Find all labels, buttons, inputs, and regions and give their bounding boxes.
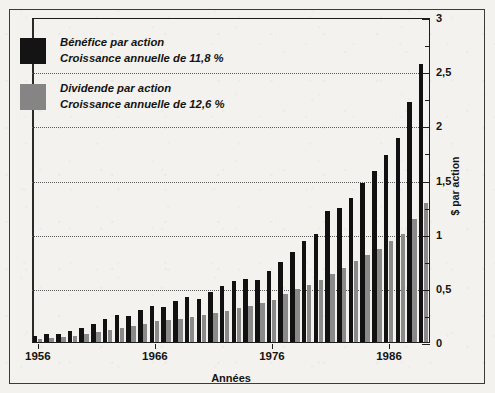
x-tick	[272, 344, 273, 349]
bar-dividende-1968	[178, 319, 183, 342]
y-tick-major	[422, 19, 430, 20]
y-tick-minor	[425, 317, 430, 318]
bar-benefice-1981	[325, 211, 330, 342]
legend-swatch-benefice-icon	[20, 38, 46, 64]
bar-benefice-1983	[349, 198, 354, 342]
bar-benefice-1967	[161, 307, 166, 342]
bar-dividende-1966	[155, 321, 160, 342]
legend-label-dividende: Dividende par action Croissance annuelle…	[60, 81, 225, 112]
y-tick-major	[422, 182, 430, 183]
bar-benefice-1965	[138, 310, 143, 343]
bar-benefice-1964	[126, 316, 131, 342]
bar-dividende-1960	[84, 334, 89, 342]
bar-dividende-1970	[202, 315, 207, 342]
bar-benefice-1957	[44, 334, 49, 342]
bar-benefice-1974	[243, 279, 248, 342]
bar-dividende-1958	[61, 337, 66, 342]
bar-benefice-1960	[79, 328, 84, 342]
bar-benefice-1987	[396, 138, 401, 342]
y-tick-label: 1	[436, 229, 442, 241]
bar-dividende-1982	[342, 268, 347, 342]
y-tick-major	[422, 127, 430, 128]
bar-dividende-1961	[96, 332, 101, 342]
bar-benefice-1982	[337, 208, 342, 342]
bar-benefice-1958	[56, 334, 61, 342]
bar-dividende-1983	[354, 261, 359, 342]
bar-dividende-1972	[225, 311, 230, 342]
y-tick-minor	[425, 209, 430, 210]
bar-dividende-1963	[120, 328, 125, 342]
x-tick-label-1976: 1976	[259, 350, 285, 362]
legend-swatch-dividende-icon	[20, 84, 46, 110]
bar-benefice-1961	[91, 324, 96, 342]
bar-dividende-1964	[131, 326, 136, 342]
y-tick-label: 2,5	[436, 66, 451, 78]
bar-benefice-1985	[372, 171, 377, 342]
bar-benefice-1959	[68, 331, 73, 342]
bar-dividende-1978	[295, 289, 300, 342]
y-tick-major	[422, 344, 430, 345]
y-tick-label: 0,5	[436, 283, 451, 295]
y-tick-major	[422, 290, 430, 291]
bar-dividende-1980	[319, 280, 324, 342]
x-axis-label: Années	[211, 372, 251, 384]
bar-dividende-1975	[260, 303, 265, 342]
bar-benefice-1976	[267, 271, 272, 343]
y-tick-minor	[425, 154, 430, 155]
bar-dividende-1962	[108, 330, 113, 342]
y-tick-minor	[425, 263, 430, 264]
y-tick-minor	[425, 100, 430, 101]
x-tick	[389, 344, 390, 349]
legend-dividende-growth: Croissance annuelle de 12,6 %	[60, 97, 225, 113]
bar-benefice-1979	[302, 241, 307, 342]
bar-benefice-1988	[407, 102, 412, 343]
bar-benefice-1973	[232, 281, 237, 342]
bar-dividende-1989	[424, 203, 429, 342]
legend-item-benefice: Bénéfice par action Croissance annuelle …	[20, 36, 250, 82]
bar-dividende-1956	[38, 339, 43, 342]
legend-benefice-title: Bénéfice par action	[60, 35, 224, 51]
bar-benefice-1969	[185, 297, 190, 343]
bar-benefice-1972	[220, 286, 225, 342]
bar-dividende-1988	[412, 219, 417, 343]
bar-benefice-1962	[103, 319, 108, 342]
bar-benefice-1966	[150, 306, 155, 342]
bar-dividende-1986	[389, 241, 394, 342]
legend-label-benefice: Bénéfice par action Croissance annuelle …	[60, 35, 224, 66]
y-tick-major	[422, 236, 430, 237]
x-tick-label-1956: 1956	[25, 350, 51, 362]
y-tick-major	[422, 73, 430, 74]
bar-benefice-1968	[173, 301, 178, 342]
bar-dividende-1981	[330, 274, 335, 342]
legend-benefice-growth: Croissance annuelle de 11,8 %	[60, 51, 224, 67]
x-tick-label-1966: 1966	[142, 350, 168, 362]
bar-benefice-1971	[208, 292, 213, 342]
y-tick-minor	[425, 46, 430, 47]
bar-dividende-1971	[213, 313, 218, 342]
bar-dividende-1965	[143, 324, 148, 342]
bar-dividende-1957	[49, 338, 54, 342]
bar-dividende-1979	[307, 285, 312, 342]
bar-dividende-1977	[283, 294, 288, 342]
bar-dividende-1967	[166, 320, 171, 342]
bar-benefice-1975	[255, 280, 260, 342]
bar-benefice-1986	[384, 155, 389, 342]
bar-benefice-1977	[278, 262, 283, 342]
bar-benefice-1963	[115, 315, 120, 342]
bar-benefice-1980	[314, 234, 319, 342]
legend-item-dividende: Dividende par action Croissance annuelle…	[20, 82, 250, 128]
bar-dividende-1985	[377, 249, 382, 342]
x-tick-label-1986: 1986	[376, 350, 402, 362]
bar-dividende-1976	[272, 300, 277, 342]
bar-dividende-1984	[365, 255, 370, 342]
y-tick-label: 0	[436, 337, 442, 349]
bar-benefice-1989	[419, 64, 424, 342]
x-tick	[155, 344, 156, 349]
y-axis-label: $ par action	[449, 157, 461, 216]
bar-dividende-1973	[237, 308, 242, 342]
bar-benefice-1984	[360, 183, 365, 342]
y-tick-label: 2	[436, 120, 442, 132]
bar-dividende-1987	[401, 234, 406, 342]
chart-legend: Bénéfice par action Croissance annuelle …	[20, 36, 250, 128]
x-tick	[38, 344, 39, 349]
